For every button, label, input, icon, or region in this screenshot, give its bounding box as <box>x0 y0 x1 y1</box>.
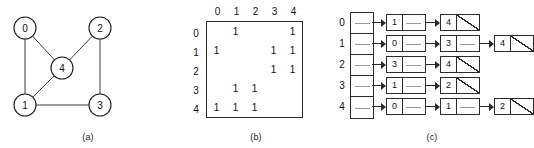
list-node-value: 4 <box>495 36 511 51</box>
list-node: 4 <box>440 56 480 73</box>
list-node-value: 4 <box>441 57 457 72</box>
list-node-pointer <box>457 99 479 114</box>
arrow-icon <box>480 102 494 111</box>
list-node-value: 3 <box>387 57 403 72</box>
matrix-col-header-3: 3 <box>265 6 284 17</box>
list-node-pointer <box>403 57 425 72</box>
matrix-cell-2-0 <box>207 60 226 79</box>
list-node-pointer <box>457 36 479 51</box>
matrix-row: 11 <box>207 60 302 79</box>
list-node-value: 0 <box>387 36 403 51</box>
adjacency-index-slot-0 <box>351 13 373 34</box>
graph-node-label-4: 4 <box>59 63 65 74</box>
adjacency-index-label-1: 1 <box>336 33 348 54</box>
matrix-cell-3-3 <box>264 79 283 98</box>
list-node-pointer <box>403 99 425 114</box>
matrix-cell-2-4: 1 <box>283 60 302 79</box>
list-node-pointer <box>403 78 425 93</box>
matrix-row-header-4: 4 <box>190 100 202 119</box>
matrix-cell-0-0 <box>207 22 226 41</box>
graph-edge-0-4 <box>32 36 54 60</box>
null-pointer-icon <box>511 99 533 114</box>
null-pointer-icon <box>457 78 479 93</box>
matrix-cell-3-4 <box>283 79 302 98</box>
arrow-icon <box>426 81 440 90</box>
matrix-col-header-0: 0 <box>208 6 227 17</box>
matrix-col-header-2: 2 <box>246 6 265 17</box>
list-node: 3 <box>440 35 480 52</box>
graph-node-group: 01234 <box>14 17 111 116</box>
matrix-column-headers: 01234 <box>208 6 303 17</box>
list-node-value: 2 <box>441 78 457 93</box>
arrow-icon <box>426 18 440 27</box>
list-node-value: 4 <box>441 15 457 30</box>
panel-adjacency-list: 01234 140343412012 (c) <box>336 0 528 148</box>
adjacency-index-label-2: 2 <box>336 54 348 75</box>
graph-node-label-1: 1 <box>22 100 28 111</box>
list-node: 4 <box>440 14 480 31</box>
matrix-cell-0-2 <box>245 22 264 41</box>
graph-edge-2-4 <box>70 36 93 60</box>
caption-c: (c) <box>336 132 528 142</box>
list-node-value: 0 <box>387 99 403 114</box>
arrow-icon <box>426 102 440 111</box>
matrix-row-header-0: 0 <box>190 24 202 43</box>
matrix-cell-2-1 <box>226 60 245 79</box>
null-pointer-icon <box>511 36 533 51</box>
matrix-cell-1-0: 1 <box>207 41 226 60</box>
matrix-cell-1-4: 1 <box>283 41 302 60</box>
graph-node-label-3: 3 <box>97 100 103 111</box>
matrix-cell-4-4 <box>283 98 302 117</box>
adjacency-chain-3: 12 <box>372 75 480 96</box>
matrix-cell-4-0: 1 <box>207 98 226 117</box>
arrow-icon <box>372 81 386 90</box>
panel-graph: 01234 (a) <box>0 0 176 148</box>
adjacency-chain-4: 012 <box>372 96 534 117</box>
caption-b: (b) <box>176 132 336 142</box>
matrix-row-header-2: 2 <box>190 62 202 81</box>
adjacency-index-slot-4 <box>351 97 373 118</box>
adjacency-index-slot-2 <box>351 55 373 76</box>
list-node-value: 1 <box>387 15 403 30</box>
null-pointer-icon <box>457 15 479 30</box>
list-node: 3 <box>386 56 426 73</box>
adjacency-index-label-4: 4 <box>336 96 348 117</box>
arrow-icon <box>372 39 386 48</box>
matrix-row-header-1: 1 <box>190 43 202 62</box>
matrix-row: 11 <box>207 22 302 41</box>
arrow-icon <box>372 18 386 27</box>
graph-node-label-0: 0 <box>22 23 28 34</box>
matrix-cell-2-2 <box>245 60 264 79</box>
adjacency-index-label-3: 3 <box>336 75 348 96</box>
list-node: 0 <box>386 35 426 52</box>
matrix-row-header-3: 3 <box>190 81 202 100</box>
list-node: 1 <box>386 77 426 94</box>
matrix-row: 11 <box>207 79 302 98</box>
matrix-cell-0-1: 1 <box>226 22 245 41</box>
matrix-row: 111 <box>207 41 302 60</box>
list-node-value: 3 <box>441 36 457 51</box>
matrix-cell-3-0 <box>207 79 226 98</box>
list-node-value: 2 <box>495 99 511 114</box>
matrix-cell-3-1: 1 <box>226 79 245 98</box>
list-node: 2 <box>494 98 534 115</box>
matrix-cell-4-3 <box>264 98 283 117</box>
arrow-icon <box>426 60 440 69</box>
matrix-cell-4-2: 1 <box>245 98 264 117</box>
matrix-cell-1-3: 1 <box>264 41 283 60</box>
matrix-cell-4-1: 1 <box>226 98 245 117</box>
list-node-value: 1 <box>441 99 457 114</box>
list-node-value: 1 <box>387 78 403 93</box>
null-pointer-icon <box>457 57 479 72</box>
adjacency-chain-1: 034 <box>372 33 534 54</box>
matrix-row: 111 <box>207 98 302 117</box>
list-node-pointer <box>403 15 425 30</box>
adjacency-index-label-0: 0 <box>336 12 348 33</box>
matrix-row-headers: 01234 <box>190 24 202 119</box>
matrix-col-header-4: 4 <box>284 6 303 17</box>
arrow-icon <box>372 102 386 111</box>
matrix-cell-0-3 <box>264 22 283 41</box>
arrow-icon <box>372 60 386 69</box>
list-node-pointer <box>403 36 425 51</box>
